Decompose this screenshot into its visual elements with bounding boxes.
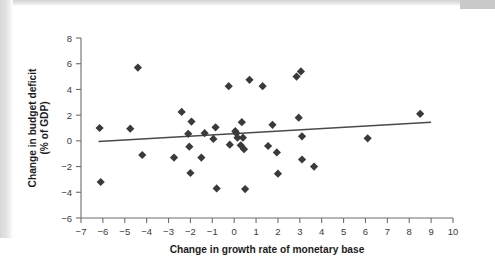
data-point-marker bbox=[264, 142, 272, 150]
data-point-marker bbox=[185, 143, 193, 151]
data-point-marker bbox=[273, 148, 281, 156]
data-point-marker bbox=[238, 118, 246, 126]
y-tick-label: 2 bbox=[67, 110, 72, 121]
data-point-marker bbox=[364, 134, 372, 142]
x-axis-ticks bbox=[81, 218, 453, 223]
x-tick-label: 2 bbox=[275, 226, 280, 237]
data-point-marker bbox=[186, 169, 194, 177]
data-point-marker bbox=[298, 155, 306, 163]
x-tick-label: −6 bbox=[97, 226, 108, 237]
x-tick-label: 7 bbox=[385, 226, 390, 237]
x-tick-label: −5 bbox=[119, 226, 130, 237]
y-axis-tick-labels: −6−4−202468 bbox=[61, 33, 72, 224]
x-tick-label: −1 bbox=[207, 226, 218, 237]
data-point-marker bbox=[187, 117, 195, 125]
x-tick-label: 5 bbox=[341, 226, 346, 237]
data-point-marker bbox=[209, 135, 217, 143]
y-tick-label: 0 bbox=[67, 135, 72, 146]
scatter-plot-figure: −7−6−5−4−3−2−1012345678910 −6−4−202468 C… bbox=[0, 0, 495, 275]
data-point-marker bbox=[259, 82, 267, 90]
data-point-marker bbox=[239, 134, 247, 142]
plot-canvas: −7−6−5−4−3−2−1012345678910 −6−4−202468 C… bbox=[0, 0, 495, 275]
y-tick-label: −4 bbox=[61, 187, 72, 198]
data-point-marker bbox=[274, 170, 282, 178]
data-point-marker bbox=[178, 108, 186, 116]
y-tick-label: −2 bbox=[61, 161, 72, 172]
x-tick-label: 6 bbox=[363, 226, 368, 237]
x-tick-label: −2 bbox=[185, 226, 196, 237]
x-axis-tick-labels: −7−6−5−4−3−2−1012345678910 bbox=[76, 226, 459, 237]
data-point-marker bbox=[197, 153, 205, 161]
x-tick-label: −7 bbox=[76, 226, 87, 237]
data-point-markers bbox=[96, 63, 425, 193]
data-point-marker bbox=[310, 162, 318, 170]
data-point-marker bbox=[241, 185, 249, 193]
data-point-marker bbox=[97, 178, 105, 186]
y-axis-title-line-1: Change in budget deficit bbox=[27, 68, 38, 187]
x-tick-label: 0 bbox=[232, 226, 237, 237]
x-tick-label: 4 bbox=[319, 226, 324, 237]
trend-line bbox=[99, 122, 432, 141]
x-tick-label: 9 bbox=[428, 226, 433, 237]
data-point-marker bbox=[298, 132, 306, 140]
y-tick-label: 8 bbox=[67, 33, 72, 44]
data-point-marker bbox=[138, 151, 146, 159]
data-point-marker bbox=[268, 121, 276, 129]
y-tick-label: 6 bbox=[67, 58, 72, 69]
y-axis-ticks bbox=[76, 38, 81, 218]
data-point-marker bbox=[226, 141, 234, 149]
x-tick-label: 1 bbox=[253, 226, 258, 237]
x-tick-label: −4 bbox=[141, 226, 152, 237]
data-point-marker bbox=[126, 125, 134, 133]
data-point-marker bbox=[295, 114, 303, 122]
data-point-marker bbox=[245, 76, 253, 84]
x-tick-label: 10 bbox=[448, 226, 459, 237]
data-point-marker bbox=[211, 123, 219, 131]
y-tick-label: −6 bbox=[61, 213, 72, 224]
y-tick-label: 4 bbox=[67, 84, 72, 95]
data-point-marker bbox=[225, 82, 233, 90]
x-tick-label: 3 bbox=[297, 226, 302, 237]
x-tick-label: 8 bbox=[407, 226, 412, 237]
data-point-marker bbox=[416, 110, 424, 118]
data-point-marker bbox=[213, 184, 221, 192]
x-tick-label: −3 bbox=[163, 226, 174, 237]
y-axis-title-line-2: (% of GDP) bbox=[39, 101, 50, 154]
x-axis-title: Change in growth rate of monetary base bbox=[170, 244, 365, 255]
data-point-marker bbox=[96, 124, 104, 132]
data-point-marker bbox=[170, 153, 178, 161]
data-point-marker bbox=[134, 63, 142, 71]
